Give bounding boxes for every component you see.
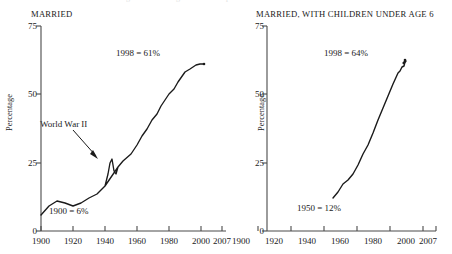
x-ticks-right — [258, 226, 436, 231]
plot-area-right — [226, 0, 452, 254]
chart-panel-married: MARRIED Percentage 75 50 25 0 1900 1920 … — [0, 0, 226, 254]
data-line-right — [333, 60, 406, 198]
y-ticks-left — [36, 26, 41, 231]
data-line-left — [41, 64, 204, 215]
figure-two-panel-line-charts: g g p MARRIED Percentage 75 50 25 0 1900… — [0, 0, 452, 254]
data-endpoint-left — [203, 63, 206, 66]
data-endpoint-right — [404, 59, 407, 62]
x-ticks-left — [41, 226, 222, 231]
y-ticks-right — [262, 26, 267, 231]
plot-area-left — [0, 0, 226, 254]
annotation-arrow-left — [73, 130, 98, 159]
chart-panel-married-with-children: MARRIED, WITH CHILDREN UNDER AGE 6 Perce… — [226, 0, 452, 254]
